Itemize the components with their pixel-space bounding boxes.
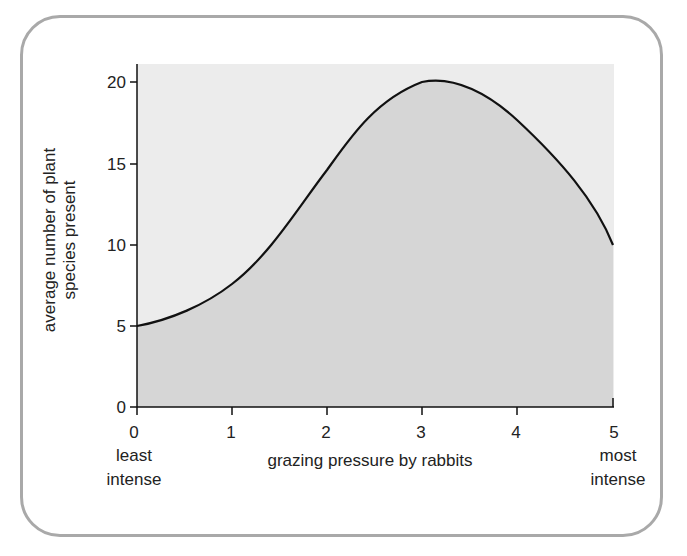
x-end-label-right: intense (591, 470, 646, 489)
y-tick-label: 15 (107, 155, 126, 174)
y-tick-label: 5 (117, 317, 126, 336)
y-tick-label: 10 (107, 236, 126, 255)
x-end-label-right: most (600, 446, 637, 465)
x-tick-label: 5 (609, 423, 618, 442)
x-end-label-left: intense (107, 470, 162, 489)
x-tick-label: 2 (321, 423, 330, 442)
x-axis-title: grazing pressure by rabbits (267, 451, 472, 470)
x-tick-label: 3 (416, 423, 425, 442)
x-tick-label: 0 (129, 423, 138, 442)
x-tick-label: 1 (226, 423, 235, 442)
chart-svg: 20 15 10 5 0 0 1 2 3 4 5 least intense m… (0, 0, 687, 556)
y-ticks (130, 82, 137, 407)
y-tick-label: 20 (107, 73, 126, 92)
y-tick-label: 0 (117, 398, 126, 417)
y-axis-title-line1: average number of plant (40, 148, 59, 333)
y-axis-title-line2: species present (60, 180, 79, 299)
y-axis-title: average number of plant species present (40, 148, 79, 333)
x-end-label-left: least (116, 446, 152, 465)
x-tick-label: 4 (511, 423, 520, 442)
